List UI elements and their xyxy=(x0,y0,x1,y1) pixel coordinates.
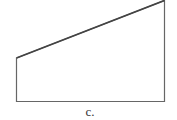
trapezoid-shape xyxy=(17,1,165,102)
trapezoid-figure xyxy=(0,0,177,120)
slanted-top-edge xyxy=(17,1,165,59)
figure-label: c. xyxy=(0,104,177,120)
